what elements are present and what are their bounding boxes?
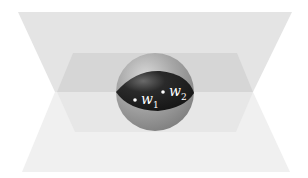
point-w2 [161,90,165,94]
diagram-canvas: w1 w2 [0,0,308,178]
label-w2: w2 [169,84,187,102]
label-w1: w1 [141,92,159,110]
point-w1 [133,98,137,102]
planes-and-sphere-figure [0,0,308,178]
